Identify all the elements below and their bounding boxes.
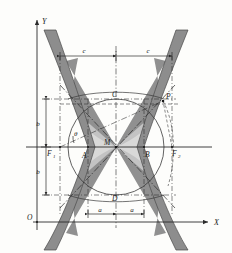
x-axis-label: X <box>213 218 220 227</box>
dimension-label-c-left: c <box>82 47 86 55</box>
focus-left-letter: F <box>46 149 52 158</box>
curve-point-label: P <box>165 92 171 101</box>
dimension-label-b-lower: b <box>36 168 40 176</box>
focus-left-label: F 1 <box>46 149 56 159</box>
asymptotes <box>60 85 175 208</box>
vertex-left-label: A <box>81 151 87 160</box>
top-point-label: C <box>112 90 118 99</box>
angle-label: θ <box>74 130 78 138</box>
dimension-label-b-upper: b <box>36 120 40 128</box>
dimension-label-c-right: c <box>146 47 150 55</box>
origin-label: O <box>27 213 33 222</box>
hyperbola-figure: c c a a b b Y X O F 1 F 2 <box>0 0 232 253</box>
figure-canvas: c c a a b b Y X O F 1 F 2 <box>0 0 232 253</box>
focus-right-letter: F <box>171 149 177 158</box>
vertex-right-label: B <box>145 150 150 159</box>
center-label: M <box>103 138 111 147</box>
bottom-point-label: D <box>111 194 118 203</box>
focus-left-subscript: 1 <box>53 154 56 159</box>
focus-right-subscript: 2 <box>178 154 181 159</box>
dimension-label-a-right: a <box>130 206 134 214</box>
focus-right-label: F 2 <box>171 149 181 159</box>
dimension-label-a-left: a <box>98 206 102 214</box>
dimension-left <box>41 99 51 195</box>
y-axis-label: Y <box>42 17 48 26</box>
